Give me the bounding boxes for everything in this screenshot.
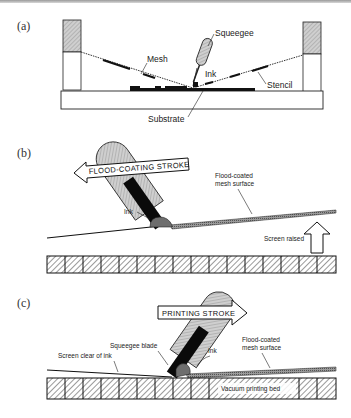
label-screen-clear: Screen clear of ink: [58, 352, 113, 359]
label-mesh: Mesh: [147, 54, 168, 64]
label-vacuum-bed: Vacuum printing bed: [221, 385, 281, 393]
panel-c-label: (c): [17, 296, 30, 310]
substrate: [130, 88, 255, 91]
panel-a: (a) Squeegee Mesh Ink: [17, 19, 323, 124]
frame-left-bottom: [63, 52, 81, 90]
label-substrate: Substrate: [148, 114, 185, 124]
label-stencil: Stencil: [267, 80, 293, 90]
stencil: [252, 66, 268, 71]
panel-a-label: (a): [17, 19, 30, 33]
ink-a: [193, 82, 198, 87]
squeegee-c: [159, 286, 241, 385]
label-ink: Ink: [205, 69, 217, 79]
panel-b-label: (b): [17, 146, 31, 160]
label-flood-coated-c-2: mesh surface: [242, 344, 281, 351]
label-squeegee-blade: Squeegee blade: [110, 342, 158, 350]
label-ink-c: Ink: [208, 347, 217, 354]
panel-c: (c) PRINTING STROKE Squeegee blade Scree…: [17, 286, 336, 399]
frame-left-top: [63, 20, 81, 52]
label-ink-b: Ink: [124, 208, 133, 215]
frame-right-top: [303, 22, 321, 54]
panel-b: (b) FLOOD-COATING STROKE Ink Flood-coate…: [17, 135, 336, 273]
screen-clear-c: [47, 370, 172, 377]
screen-printing-diagram: (a) Squeegee Mesh Ink: [0, 0, 351, 418]
label-screen-raised: Screen raised: [264, 235, 304, 242]
label-flood-coated-b-2: mesh surface: [215, 180, 254, 187]
printing-stroke-label: PRINTING STROKE: [162, 309, 235, 318]
label-squeegee: Squeegee: [215, 28, 254, 38]
label-flood-coated-c-1: Flood-coated: [242, 336, 280, 343]
frame-right-bottom: [303, 54, 321, 92]
label-flood-coated-b-1: Flood-coated: [215, 172, 253, 179]
mesh-left: [81, 52, 193, 88]
print-table: [61, 91, 323, 109]
screen-raised-arrow-icon: [304, 222, 330, 253]
flood-coated-mesh-b: [170, 210, 336, 229]
ink-b: [150, 217, 172, 227]
flood-coated-mesh-c: [186, 367, 336, 378]
